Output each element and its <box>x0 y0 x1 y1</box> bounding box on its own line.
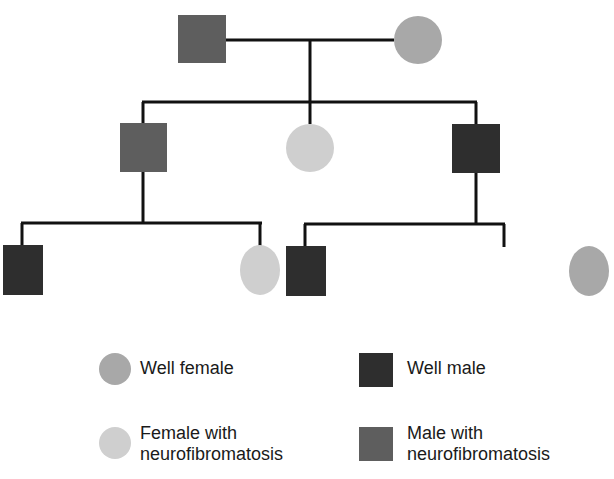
g3-right-son-well-male <box>286 246 326 296</box>
g1-father-affected-male <box>178 15 226 63</box>
g3-left-daughter-affected-female <box>240 245 280 295</box>
legend-well-male-label: Well male <box>407 358 486 379</box>
legend-affected-male-icon <box>359 427 393 461</box>
g3-right-daughter-well-female <box>569 246 609 296</box>
legend-well-female-icon <box>99 353 131 385</box>
g2-son-right-well-male <box>452 124 500 173</box>
g3-left-son-well-male <box>3 245 43 295</box>
g1-mother-well-female <box>394 16 442 64</box>
legend-well-male-icon <box>359 353 393 387</box>
legend-affected-female-label: Female with neurofibromatosis <box>140 423 283 465</box>
pedigree-lines <box>21 40 505 247</box>
legend-affected-male-label: Male with neurofibromatosis <box>407 423 550 465</box>
g2-daughter-affected-female <box>286 124 334 172</box>
legend-well-female-label: Well female <box>140 358 234 379</box>
g2-son-left-affected-male <box>120 123 167 172</box>
pedigree-diagram <box>0 0 614 479</box>
legend-affected-female-icon <box>99 427 131 459</box>
